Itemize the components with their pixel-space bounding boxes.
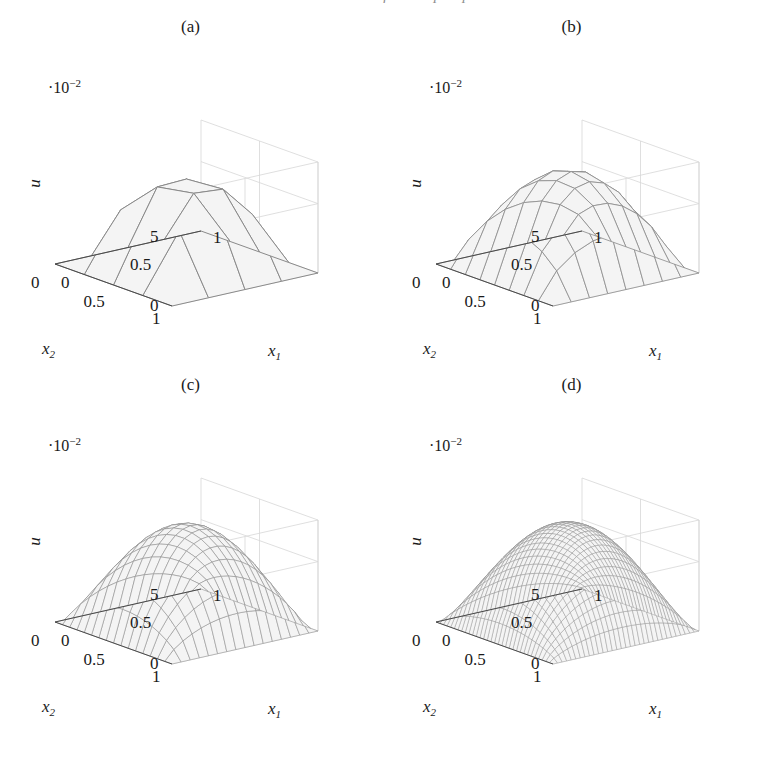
x1-axis-label: x1 xyxy=(268,342,281,362)
z-tick-5: 5 xyxy=(150,228,159,245)
panel-a: (a) ·10−2u5010.5000.51x2x1 xyxy=(0,10,381,392)
x2-axis-label: x2 xyxy=(423,698,436,718)
x2-tick-1: 1 xyxy=(533,310,542,327)
z-tick-5: 5 xyxy=(150,586,159,603)
z-axis-label: u xyxy=(26,179,43,188)
x2-tick-0.5: 0.5 xyxy=(465,651,486,668)
x1-tick-0.5: 0.5 xyxy=(130,614,151,631)
x1-tick-0.5: 0.5 xyxy=(130,256,151,273)
x1-tick-0: 0 xyxy=(61,632,70,649)
x1-tick-0: 0 xyxy=(61,274,70,291)
cutoff-header-band: Numerical solution of an elliptic proble… xyxy=(0,0,762,10)
x2-tick-0.5: 0.5 xyxy=(465,293,486,310)
surface-plot-b xyxy=(381,10,762,392)
z-axis-multiplier: ·10−2 xyxy=(429,436,462,454)
x2-tick-0: 0 xyxy=(412,274,421,291)
z-tick-5: 5 xyxy=(531,586,540,603)
x2-tick-1: 1 xyxy=(152,668,161,685)
x1-axis-label: x1 xyxy=(649,342,662,362)
x2-axis-label: x2 xyxy=(42,698,55,718)
surface-mesh-8x8 xyxy=(436,171,699,306)
x1-axis-label: x1 xyxy=(268,700,281,720)
x1-tick-1: 1 xyxy=(594,229,603,246)
x1-tick-0: 0 xyxy=(442,274,451,291)
x1-tick-1: 1 xyxy=(594,587,603,604)
x2-tick-0.5: 0.5 xyxy=(84,651,105,668)
surface-plot-d xyxy=(381,368,762,750)
x1-tick-0.5: 0.5 xyxy=(511,256,532,273)
x2-tick-1: 1 xyxy=(152,310,161,327)
surface-mesh-16x16 xyxy=(55,523,318,664)
z-axis-multiplier: ·10−2 xyxy=(48,436,81,454)
cutoff-header-text: Numerical solution of an elliptic proble… xyxy=(0,0,762,4)
x2-tick-0.5: 0.5 xyxy=(84,293,105,310)
x2-tick-0: 0 xyxy=(31,632,40,649)
x1-tick-1: 1 xyxy=(213,229,222,246)
x2-tick-0: 0 xyxy=(31,274,40,291)
panel-b: (b) ·10−2u5010.5000.51x2x1 xyxy=(381,10,762,392)
panel-d: (d) ·10−2u5010.5000.51x2x1 xyxy=(381,368,762,750)
x1-tick-0: 0 xyxy=(442,632,451,649)
x1-axis-label: x1 xyxy=(649,700,662,720)
z-axis-label: u xyxy=(26,537,43,546)
panel-c: (c) ·10−2u5010.5000.51x2x1 xyxy=(0,368,381,750)
x1-tick-1: 1 xyxy=(213,587,222,604)
z-axis-multiplier: ·10−2 xyxy=(429,78,462,96)
surface-mesh-32x32 xyxy=(436,522,699,664)
x2-axis-label: x2 xyxy=(423,340,436,360)
z-axis-label: u xyxy=(407,179,424,188)
surface-plot-a xyxy=(0,10,381,392)
surface-mesh-4x4 xyxy=(55,179,318,306)
surface-plot-c xyxy=(0,368,381,750)
x2-axis-label: x2 xyxy=(42,340,55,360)
x1-tick-0.5: 0.5 xyxy=(511,614,532,631)
figure-root: Numerical solution of an elliptic proble… xyxy=(0,0,762,765)
x2-tick-0: 0 xyxy=(412,632,421,649)
z-tick-5: 5 xyxy=(531,228,540,245)
x2-tick-1: 1 xyxy=(533,668,542,685)
z-axis-multiplier: ·10−2 xyxy=(48,78,81,96)
z-axis-label: u xyxy=(407,537,424,546)
